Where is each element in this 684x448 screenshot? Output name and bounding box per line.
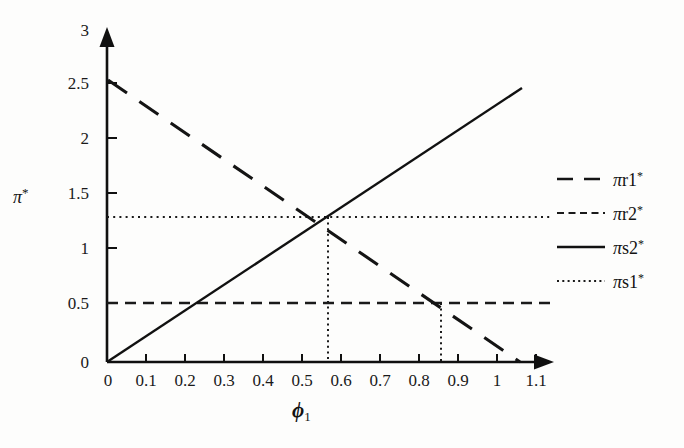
- x-tick-label-0_2: 0.2: [165, 372, 205, 389]
- legend-swatch-solid: [556, 241, 606, 253]
- legend-label-star: *: [637, 203, 643, 217]
- legend-label-pi-s1: πs1*: [613, 272, 644, 291]
- x-tick-label-0_6: 0.6: [321, 372, 361, 389]
- y-axis-title-star: *: [22, 185, 29, 200]
- x-tick-label-0_5: 0.5: [282, 372, 322, 389]
- y-axis-arrowhead: [100, 27, 115, 47]
- legend-item-pi-s1: πs1*: [556, 264, 678, 298]
- y-axis-title-symbol: π: [13, 187, 22, 207]
- legend-label-text: r1: [622, 170, 637, 190]
- x-tick-label-0_4: 0.4: [243, 372, 283, 389]
- y-axis-ticks: [107, 83, 117, 362]
- legend-item-pi-s2: πs2*: [556, 230, 678, 264]
- y-tick-label-3: 3: [57, 22, 89, 39]
- legend-label-star: *: [638, 237, 644, 251]
- y-tick-label-1: 1: [57, 240, 89, 257]
- legend-label-text: s1: [622, 272, 638, 292]
- x-tick-label-0_8: 0.8: [399, 372, 439, 389]
- legend-label-text: s2: [622, 238, 638, 258]
- x-tick-label-1: 1: [488, 372, 506, 389]
- legend-label-pi-symbol: π: [613, 204, 622, 224]
- legend-label-pi-symbol: π: [613, 238, 622, 258]
- x-tick-label-0_3: 0.3: [204, 372, 244, 389]
- legend: πr1* πr2* πs2* πs1*: [556, 162, 678, 298]
- legend-label-star: *: [637, 169, 643, 183]
- x-tick-label-1_1: 1.1: [516, 372, 556, 389]
- y-tick-label-2: 2: [57, 130, 89, 147]
- legend-item-pi-r2: πr2*: [556, 196, 678, 230]
- legend-swatch-long-dash: [556, 173, 606, 185]
- legend-label-star: *: [638, 271, 644, 285]
- chart-figure: 0 0.5 1 1.5 2 2.5 3 0 0.1 0.2 0.3 0.4 0.…: [0, 0, 684, 448]
- y-tick-label-0: 0: [57, 354, 89, 371]
- x-tick-label-0_1: 0.1: [126, 372, 166, 389]
- legend-swatch-dashed: [556, 207, 606, 219]
- x-axis-title-symbol: ϕ: [292, 398, 304, 422]
- legend-item-pi-r1: πr1*: [556, 162, 678, 196]
- y-axis-title: π*: [13, 186, 29, 206]
- legend-swatch-dotted: [556, 275, 606, 287]
- legend-label-pi-r1: πr1*: [613, 170, 643, 189]
- legend-label-pi-s2: πs2*: [613, 238, 644, 257]
- x-tick-label-0_7: 0.7: [360, 372, 400, 389]
- legend-label-pi-symbol: π: [613, 170, 622, 190]
- legend-label-pi-r2: πr2*: [613, 204, 643, 223]
- x-tick-label-0: 0: [99, 372, 117, 389]
- y-tick-label-0_5: 0.5: [45, 295, 89, 312]
- x-axis-title-subscript: 1: [304, 409, 311, 424]
- x-tick-label-0_9: 0.9: [438, 372, 478, 389]
- y-tick-label-1_5: 1.5: [45, 185, 89, 202]
- legend-label-text: r2: [622, 204, 637, 224]
- legend-label-pi-symbol: π: [613, 272, 622, 292]
- x-axis-title: ϕ1: [292, 400, 311, 423]
- y-tick-label-2_5: 2.5: [45, 75, 89, 92]
